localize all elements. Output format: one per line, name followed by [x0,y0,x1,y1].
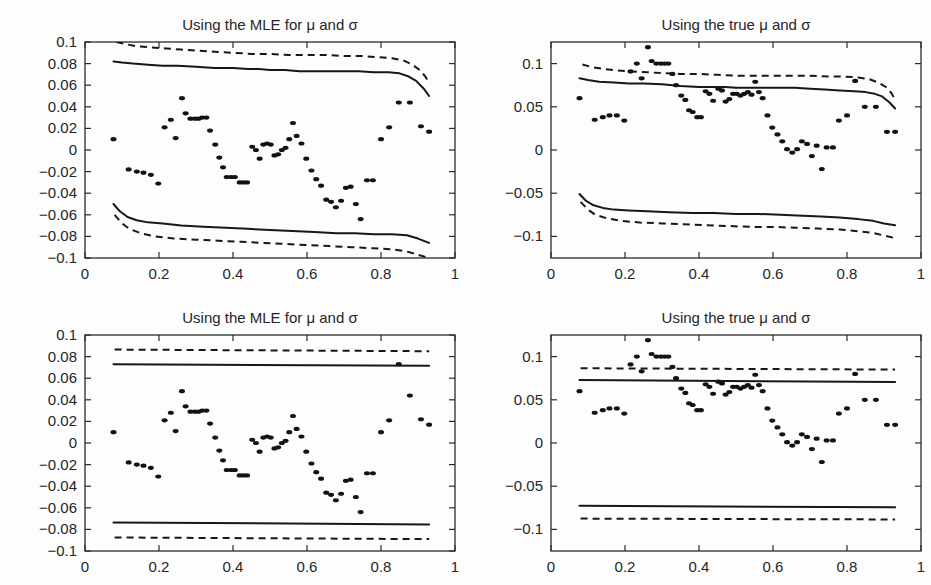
upper-dashed-band [581,368,896,369]
scatter-point [396,100,402,104]
scatter-point [862,398,868,402]
y-tick-label: −0.02 [39,456,77,473]
scatter-point [418,417,424,421]
scatter-point [814,144,820,148]
scatter-point [639,76,645,80]
x-tick-label: 0.2 [149,265,170,282]
scatter-point [407,393,413,397]
scatter-point [774,132,780,136]
scatter-point [710,392,716,396]
scatter-point [212,436,218,440]
data-layer [576,338,898,519]
scatter-point [353,495,359,499]
scatter-point [749,93,755,97]
scatter-point [824,438,830,442]
scatter-point [634,355,640,359]
scatter-point [333,498,339,502]
scatter-point [634,62,640,66]
x-tick-label: 0.6 [297,558,318,575]
scatter-point [203,116,209,120]
upper-dashed-band [116,42,429,83]
scatter-point [690,403,696,407]
scatter-point [760,96,766,100]
scatter-point [207,421,213,425]
y-tick-label: 0 [69,141,77,158]
scatter-point [809,154,815,158]
scatter-point [614,113,620,117]
y-tick-label: 0.05 [514,98,543,115]
scatter-point [134,170,140,174]
scatter-point [378,137,384,141]
scatter-point [308,461,314,465]
lower-solid-band [113,522,429,524]
x-tick-label: 0.2 [615,265,636,282]
y-tick-label: −0.1 [47,249,77,266]
scatter-point [760,389,766,393]
scatter-point [873,105,879,109]
scatter-point [621,119,627,123]
y-tick-label: 0 [535,434,543,451]
x-tick-label: 1 [917,558,925,575]
axis-frame [85,335,455,551]
panel-title: Using the true μ and σ [662,309,812,326]
scatter-point [148,466,154,470]
scatter-point [298,141,304,145]
scatter-point [364,471,370,475]
scatter-point [318,184,324,188]
x-tick-label: 0.8 [371,265,392,282]
scatter-point [328,200,334,204]
figure-container: Using the MLE for μ and σ−0.1−0.08−0.06−… [0,0,931,585]
scatter-point [794,147,800,151]
y-tick-label: 0.02 [48,119,77,136]
scatter-point [836,412,842,416]
y-tick-label: −0.05 [505,477,543,494]
scatter-point [799,139,805,143]
scatter-point [110,430,116,434]
y-tick-label: 0.1 [56,326,77,343]
scatter-point [600,115,606,119]
scatter-point [244,180,250,184]
scatter-point [290,121,296,125]
scatter-point [253,441,259,445]
scatter-point [830,438,836,442]
y-tick-label: 0.04 [48,98,77,115]
data-layer [576,45,898,238]
axis-frame [85,42,455,258]
scatter-point [719,88,725,92]
scatter-point [690,110,696,114]
scatter-point [764,113,770,117]
y-tick-label: 0.08 [48,348,77,365]
x-tick-label: 1 [917,265,925,282]
scatter-point [275,152,281,156]
scatter-point [290,414,296,418]
scatter-point [275,445,281,449]
x-tick-label: 0.2 [615,558,636,575]
scatter-point [294,134,300,138]
scatter-point [257,157,263,161]
scatter-point [600,408,606,412]
plot-svg: Using the true μ and σ−0.1−0.0500.050.10… [466,293,931,585]
scatter-point [698,115,704,119]
panel-top-right: Using the true μ and σ−0.1−0.0500.050.10… [466,0,931,292]
upper-solid-band [579,380,895,382]
scatter-point [348,185,354,189]
scatter-point [819,460,825,464]
scatter-point [809,447,815,451]
x-tick-label: 1 [451,265,459,282]
scatter-point [353,202,359,206]
y-tick-label: −0.05 [505,184,543,201]
scatter-point [665,355,671,359]
scatter-point [592,411,598,415]
y-tick-label: −0.06 [39,499,77,516]
scatter-point [286,137,292,141]
y-tick-label: 0.05 [514,391,543,408]
upper-dashed-band [115,350,430,352]
lower-dashed-band [115,538,430,540]
scatter-point [207,128,213,132]
y-tick-label: 0.1 [522,55,543,72]
upper-solid-band [113,364,429,366]
y-tick-label: −0.08 [39,227,77,244]
scatter-point [852,79,858,83]
scatter-point [358,510,364,514]
scatter-point [628,362,634,366]
